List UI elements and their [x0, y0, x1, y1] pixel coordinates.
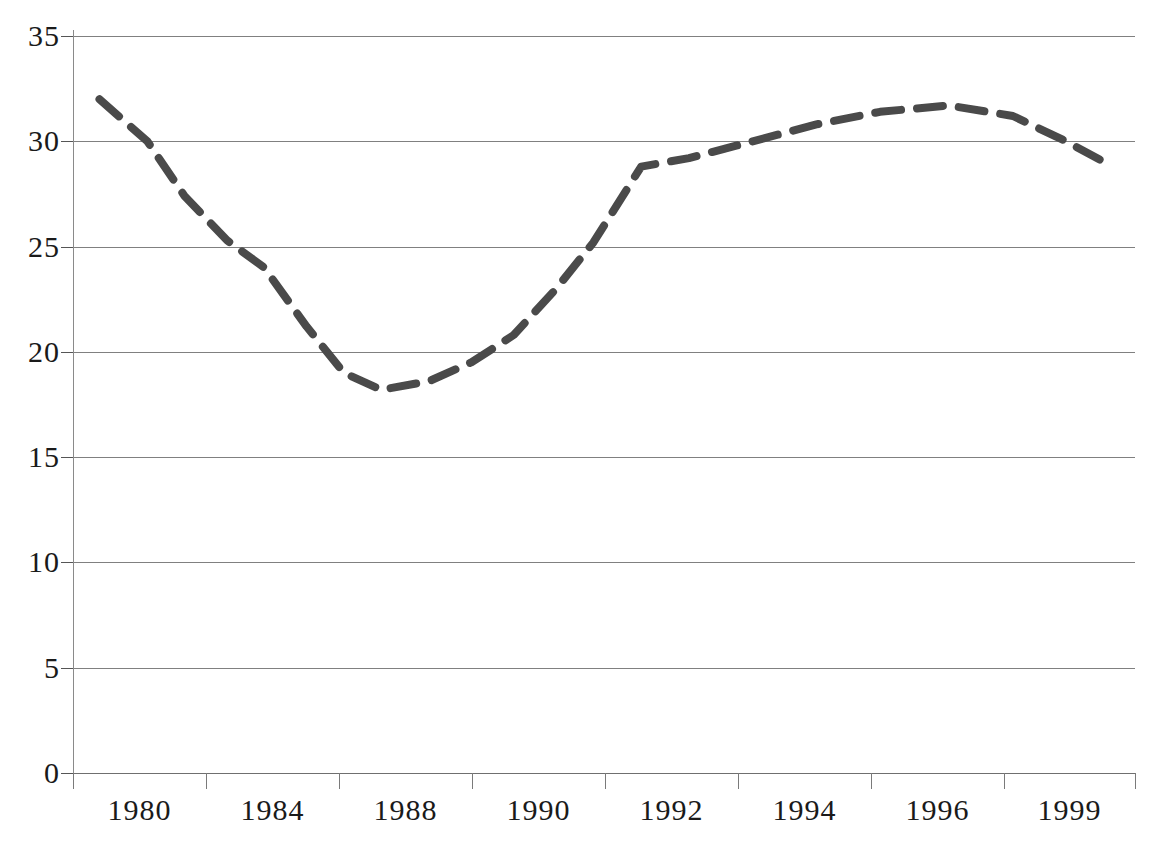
- y-tick-mark-5: [61, 668, 73, 669]
- x-tick-mark-8: [1135, 773, 1136, 789]
- y-tick-label-15: 15: [0, 442, 60, 472]
- x-tick-mark-6: [871, 773, 872, 789]
- x-tick-mark-5: [738, 773, 739, 789]
- line-chart: 35302520151050 1980198419881990199219941…: [0, 0, 1150, 846]
- x-tick-mark-4: [605, 773, 606, 789]
- gridline-y-30: [73, 141, 1135, 142]
- x-tick-mark-2: [339, 773, 340, 789]
- x-tick-label-1988: 1988: [374, 795, 438, 825]
- gridline-y-15: [73, 457, 1135, 458]
- x-tick-label-1980: 1980: [108, 795, 172, 825]
- gridline-y-20: [73, 352, 1135, 353]
- x-tick-label-1984: 1984: [241, 795, 305, 825]
- x-tick-label-1994: 1994: [773, 795, 837, 825]
- y-tick-label-25: 25: [0, 232, 60, 262]
- y-tick-mark-35: [61, 36, 73, 37]
- gridline-y-5: [73, 668, 1135, 669]
- y-tick-label-5: 5: [0, 653, 60, 683]
- y-tick-label-30: 30: [0, 126, 60, 156]
- gridline-y-35: [73, 36, 1135, 37]
- y-tick-label-0: 0: [0, 758, 60, 788]
- x-tick-label-1992: 1992: [640, 795, 704, 825]
- plot-area: [73, 36, 1135, 773]
- x-tick-label-1996: 1996: [906, 795, 970, 825]
- y-tick-label-20: 20: [0, 337, 60, 367]
- y-tick-label-10: 10: [0, 547, 60, 577]
- y-tick-mark-10: [61, 562, 73, 563]
- y-tick-mark-25: [61, 247, 73, 248]
- x-tick-label-1999: 1999: [1038, 795, 1102, 825]
- x-axis-line: [73, 773, 1135, 774]
- x-tick-mark-0: [73, 773, 74, 789]
- gridline-y-10: [73, 562, 1135, 563]
- x-tick-mark-7: [1004, 773, 1005, 789]
- y-tick-mark-15: [61, 457, 73, 458]
- y-tick-label-35: 35: [0, 21, 60, 51]
- x-tick-mark-3: [472, 773, 473, 789]
- gridline-y-25: [73, 247, 1135, 248]
- y-tick-mark-0: [61, 773, 73, 774]
- x-tick-mark-1: [206, 773, 207, 789]
- y-tick-mark-20: [61, 352, 73, 353]
- y-axis-line: [73, 30, 74, 779]
- x-tick-label-1990: 1990: [507, 795, 571, 825]
- y-tick-mark-30: [61, 141, 73, 142]
